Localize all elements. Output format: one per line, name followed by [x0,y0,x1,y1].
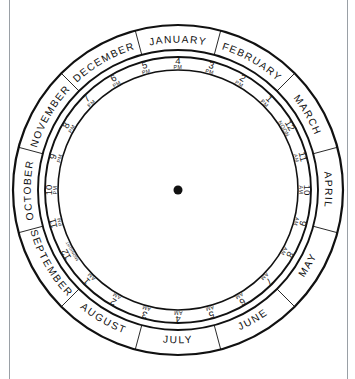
page-canvas: JANUARYFEBRUARYMARCHAPRILMAYJUNEJULYAUGU… [0,0,355,379]
month-label-november[interactable]: NOVEMBER [28,82,72,148]
hour-suffix: AM [292,153,300,163]
dial-center-hub [174,186,183,195]
month-divider [214,325,220,349]
hour-suffix: PM [52,186,58,195]
month-label-april[interactable]: APRIL [323,171,335,209]
month-label-may[interactable]: MAY [296,251,318,279]
month-label-october[interactable]: OCTOBER [21,159,35,222]
hour-suffix: AM [141,304,151,312]
month-divider [214,31,220,55]
month-divider [313,147,337,153]
hour-suffix: AM [292,217,300,227]
hour-suffix: PM [56,217,64,227]
hour-suffix: PM [205,68,215,76]
month-label-february[interactable]: FEBRUARY [221,40,285,83]
hour-suffix: AM [174,310,183,316]
month-label-january[interactable]: JANUARY [148,33,208,47]
hour-suffix: PM [141,68,151,76]
hour-suffix: AM [298,186,304,195]
month-divider [277,289,295,307]
hour-suffix: AM [205,304,215,312]
dial-hub-group [174,186,183,195]
hour-suffix: PM [56,153,64,163]
month-divider [135,31,141,55]
month-divider [19,147,43,153]
month-divider [313,226,337,232]
hour-suffix: PM [174,64,183,70]
month-label-july[interactable]: JULY [163,333,194,345]
month-label-december[interactable]: DECEMBER [71,40,137,84]
month-label-june[interactable]: JUNE [236,306,270,332]
month-divider [135,325,141,349]
month-hour-dial[interactable]: JANUARYFEBRUARYMARCHAPRILMAYJUNEJULYAUGU… [0,0,355,379]
